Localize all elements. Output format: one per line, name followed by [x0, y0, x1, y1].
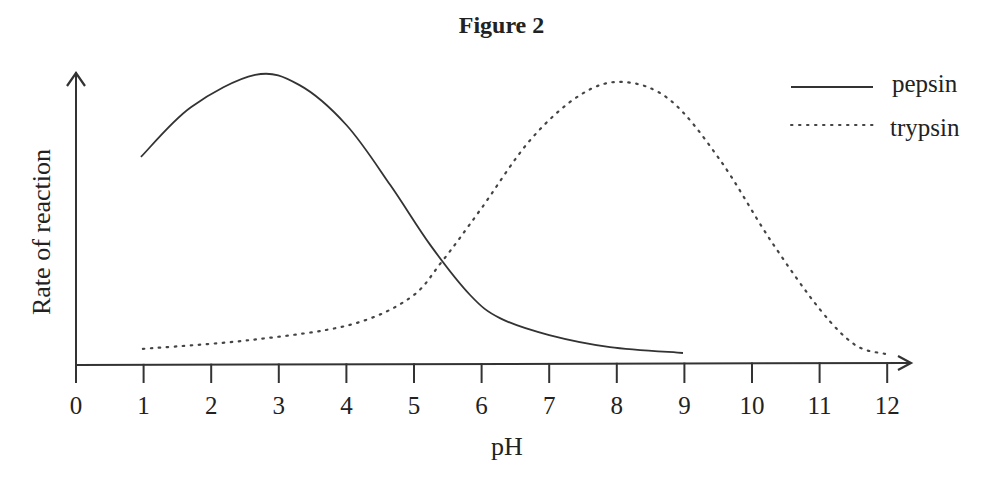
x-ticks: 0123456789101112 [70, 362, 900, 419]
legend-label: pepsin [892, 70, 958, 97]
x-tick-label: 9 [678, 392, 691, 419]
legend: pepsin trypsin [791, 70, 960, 141]
legend-item-trypsin: trypsin [791, 114, 960, 141]
x-axis-label: pH [491, 432, 523, 461]
y-axis-label: Rate of reaction [27, 149, 56, 315]
x-tick-label: 7 [543, 392, 556, 419]
x-tick-label: 6 [475, 392, 488, 419]
x-tick-label: 12 [875, 392, 900, 419]
x-tick-label: 5 [408, 392, 421, 419]
x-tick-label: 1 [137, 392, 150, 419]
legend-label: trypsin [890, 114, 960, 141]
trypsin-line [143, 82, 885, 354]
x-tick-label: 2 [205, 392, 218, 419]
line-chart: 0123456789101112 pH Rate of reaction pep… [0, 0, 1003, 483]
legend-item-pepsin: pepsin [791, 70, 958, 97]
x-tick-label: 8 [611, 392, 624, 419]
y-axis [67, 72, 85, 365]
x-tick-label: 11 [808, 392, 832, 419]
x-tick-label: 3 [273, 392, 286, 419]
x-tick-label: 4 [340, 392, 353, 419]
x-axis: 0123456789101112 [70, 356, 911, 419]
pepsin-line [141, 74, 683, 353]
x-tick-label: 0 [70, 392, 83, 419]
x-tick-label: 10 [740, 392, 765, 419]
